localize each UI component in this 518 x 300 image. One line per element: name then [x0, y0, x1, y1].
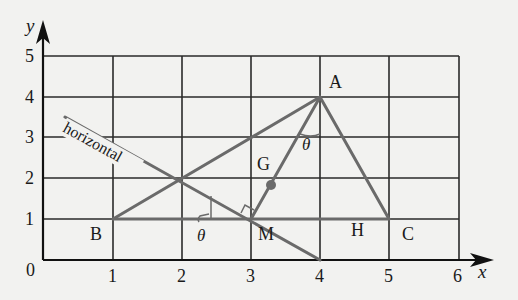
label-c: C	[402, 224, 414, 244]
label-a: A	[329, 72, 342, 92]
geometry-diagram: 0 1 2 3 4 5 6 1 2 3 4 5 x y A B C M G H …	[0, 0, 518, 300]
y-tick-5: 5	[25, 46, 34, 66]
right-angle-mark	[241, 205, 254, 213]
y-axis-label: y	[24, 15, 35, 36]
label-g: G	[257, 154, 270, 174]
x-tick-4: 4	[315, 266, 324, 286]
label-b: B	[90, 224, 102, 244]
y-tick-4: 4	[25, 87, 34, 107]
x-tick-5: 5	[384, 266, 393, 286]
origin-label: 0	[26, 260, 35, 280]
tick-labels: 0 1 2 3 4 5 6 1 2 3 4 5	[25, 46, 462, 286]
x-tick-2: 2	[177, 266, 186, 286]
x-tick-1: 1	[108, 266, 117, 286]
theta-label-m: θ	[197, 226, 205, 245]
label-h: H	[351, 220, 364, 240]
x-axis-label: x	[477, 261, 487, 282]
point-g	[266, 180, 276, 190]
theta-label-a: θ	[302, 135, 310, 154]
x-tick-3: 3	[246, 266, 255, 286]
y-tick-2: 2	[25, 168, 34, 188]
label-m: M	[258, 224, 274, 244]
horizontal-label: horizontal	[61, 119, 126, 166]
y-tick-1: 1	[25, 209, 34, 229]
y-tick-3: 3	[25, 127, 34, 147]
side-ac	[320, 97, 389, 219]
x-tick-6: 6	[453, 266, 462, 286]
